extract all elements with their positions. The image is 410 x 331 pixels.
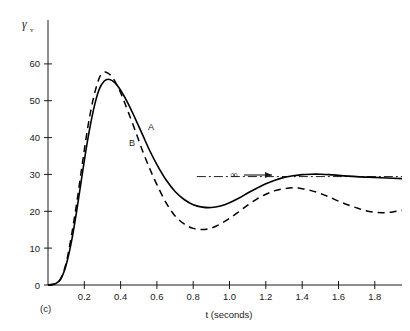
x-tick-label: 1.8 xyxy=(368,291,381,302)
x-tick-label: 1.4 xyxy=(296,291,309,302)
x-tick-label: 1.0 xyxy=(223,291,236,302)
y-axis-title: γ v xyxy=(22,17,34,34)
infinity-symbol: ∞ xyxy=(230,169,237,180)
y-axis-symbol: γ xyxy=(22,17,27,31)
x-tick-label: 0.8 xyxy=(187,291,200,302)
y-tick-label: 10 xyxy=(29,243,40,254)
y-tick-label: 30 xyxy=(29,169,40,180)
y-tick-label: 20 xyxy=(29,206,40,217)
x-tick-label: 0.4 xyxy=(114,291,127,302)
curve-a xyxy=(48,79,402,285)
arrow-head-icon xyxy=(265,172,272,178)
y-axis-subscript: v xyxy=(30,26,34,34)
y-tick-label: 0 xyxy=(35,280,40,291)
panel-label: (c) xyxy=(40,303,51,314)
x-tick-label: 1.6 xyxy=(332,291,345,302)
x-tick-label: 1.2 xyxy=(259,291,272,302)
figure-container: 0 10 20 30 40 50 60 γ v 0.2 0 xyxy=(0,0,410,331)
x-tick-label: 0.2 xyxy=(78,291,91,302)
curve-b xyxy=(48,72,402,285)
x-tick-label: 0.6 xyxy=(150,291,163,302)
x-axis-title: t (seconds) xyxy=(206,309,253,320)
curve-label-a: A xyxy=(148,122,154,132)
y-tick-label: 60 xyxy=(29,58,40,69)
y-axis-tick-labels: 0 10 20 30 40 50 60 xyxy=(29,58,40,290)
chart-svg: 0 10 20 30 40 50 60 γ v 0.2 0 xyxy=(0,0,410,331)
y-tick-label: 40 xyxy=(29,132,40,143)
asymptote-arrow-annotation: ∞ xyxy=(230,169,272,180)
x-axis-tick-labels: 0.2 0.4 0.6 0.8 1.0 1.2 1.4 1.6 1.8 xyxy=(78,291,382,302)
y-tick-label: 50 xyxy=(29,95,40,106)
curve-label-b: B xyxy=(129,138,135,148)
